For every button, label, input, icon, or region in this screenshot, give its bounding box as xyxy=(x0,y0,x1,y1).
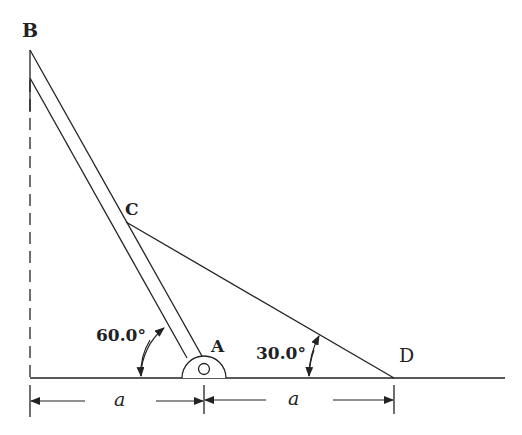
dimension-label-right-a: a xyxy=(288,387,299,409)
label-b: B xyxy=(22,19,38,41)
angle-arc-30 xyxy=(309,336,319,376)
angle-label-60: 60.0° xyxy=(96,325,146,345)
dimension-label-left-a: a xyxy=(114,388,125,410)
bar-ab-outer-edge xyxy=(30,50,202,356)
bar-ab-inner-edge xyxy=(30,78,187,358)
label-a: A xyxy=(210,336,225,356)
angle-label-30: 30.0° xyxy=(256,343,306,363)
diagram-canvas: B C A D 60.0° 30.0° a a xyxy=(0,0,522,435)
label-c: C xyxy=(125,199,139,219)
label-d: D xyxy=(399,344,414,366)
pin-a xyxy=(199,364,210,375)
mechanics-diagram: B C A D 60.0° 30.0° a a xyxy=(0,0,522,435)
